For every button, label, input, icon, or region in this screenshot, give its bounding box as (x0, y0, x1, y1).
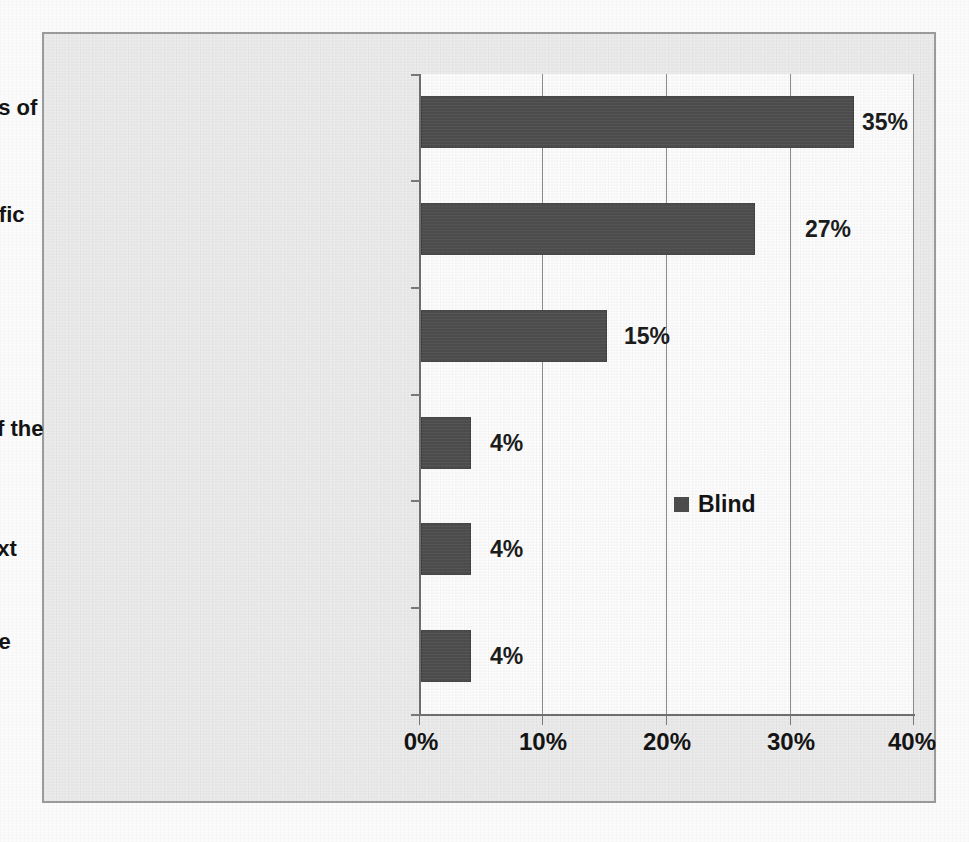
data-label-category-0: 35% (862, 111, 908, 134)
x-axis-tick (419, 716, 420, 725)
x-tick-label-20: 20% (643, 728, 691, 756)
category-label-4: For the aesthetics of the text (0, 535, 47, 563)
category-label-1: To give emphasis at a specific point (0, 201, 47, 256)
gridline-30-percent (790, 74, 791, 714)
y-axis-tick (411, 500, 420, 502)
category-label-2: They are more important (0, 322, 47, 350)
data-label-category-1: 27% (805, 218, 851, 241)
category-label-3: To comprehend some parts of the text (0, 415, 47, 470)
legend-swatch-blind (674, 497, 689, 512)
bar-category-2 (421, 310, 607, 362)
data-label-category-5: 4% (490, 645, 523, 668)
y-axis-tick (411, 607, 420, 609)
data-label-category-2: 15% (624, 325, 670, 348)
scanned-page-background: 35% 27% 15% 4% 4% 4% To distinguish some… (0, 0, 969, 842)
bar-category-5 (421, 630, 471, 682)
x-axis-tick (666, 716, 667, 725)
x-axis-tick (913, 716, 914, 725)
y-axis-tick (411, 394, 420, 396)
x-tick-label-0: 0% (404, 728, 439, 756)
x-axis-tick (790, 716, 791, 725)
data-label-category-4: 4% (490, 538, 523, 561)
x-tick-label-40: 40% (888, 728, 936, 756)
bar-category-0 (421, 96, 854, 148)
bar-category-4 (421, 523, 471, 575)
chart-frame: 35% 27% 15% 4% 4% 4% To distinguish some… (42, 32, 936, 803)
x-axis-tick (542, 716, 543, 725)
gridline-40-percent (913, 74, 914, 714)
bar-category-1 (421, 203, 755, 255)
y-axis-tick (411, 74, 420, 76)
y-axis-tick (411, 180, 420, 182)
gridline-20-percent (666, 74, 667, 714)
y-axis-tick (411, 287, 420, 289)
x-tick-label-30: 30% (767, 728, 815, 756)
chart-legend: Blind (674, 493, 756, 516)
category-label-0: To distinguish some elements of the text… (0, 94, 47, 149)
bar-category-3 (421, 417, 471, 469)
legend-label-blind: Blind (698, 493, 756, 516)
x-tick-label-10: 10% (519, 728, 567, 756)
data-label-category-3: 4% (490, 432, 523, 455)
gridline-10-percent (542, 74, 543, 714)
category-label-5: The reader has to pay more attention (0, 628, 47, 683)
x-axis-line (419, 714, 915, 716)
